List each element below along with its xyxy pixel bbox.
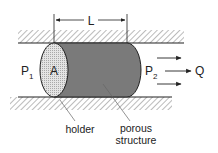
svg-text:2: 2: [153, 72, 158, 81]
top-wall: [18, 30, 184, 43]
area-label: A: [50, 64, 58, 78]
bottom-wall: [10, 97, 172, 110]
svg-text:P: P: [145, 64, 153, 78]
svg-text:P: P: [21, 64, 29, 78]
holder-label: holder: [65, 123, 95, 135]
flow-rate-label: Q: [195, 64, 204, 78]
porous-flow-diagram: L A P 1 P 2 Q holder porous structure: [0, 0, 218, 153]
length-label: L: [88, 14, 95, 28]
porous-label-line2: structure: [116, 134, 157, 146]
porous-label-line1: porous: [120, 122, 152, 134]
inlet-pressure-label: P 1: [21, 64, 34, 81]
svg-text:1: 1: [29, 72, 34, 81]
outlet-pressure-label: P 2: [145, 64, 158, 81]
flow-arrows: [157, 58, 191, 84]
